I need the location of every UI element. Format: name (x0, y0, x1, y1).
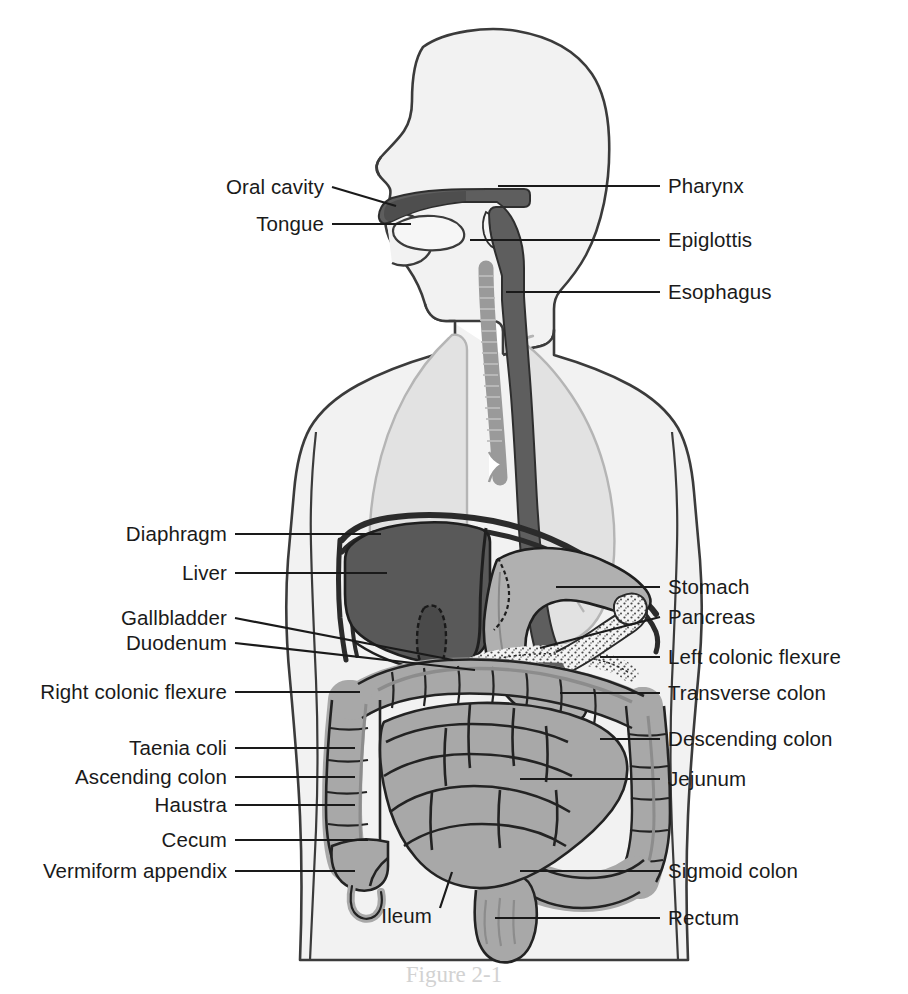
label-stomach: Stomach (668, 577, 750, 598)
label-vermiform-appendix: Vermiform appendix (0, 861, 227, 882)
label-ascending-colon: Ascending colon (0, 767, 227, 788)
label-left-colonic-flexure: Left colonic flexure (668, 647, 841, 668)
pancreas-head (614, 594, 647, 625)
label-duodenum: Duodenum (0, 633, 227, 654)
label-tongue: Tongue (0, 214, 324, 235)
label-transverse-colon: Transverse colon (668, 683, 826, 704)
label-jejunum: Jejunum (668, 769, 746, 790)
label-pharynx: Pharynx (668, 176, 744, 197)
label-taenia-coli: Taenia coli (0, 738, 227, 759)
label-diaphragm: Diaphragm (0, 524, 227, 545)
label-esophagus: Esophagus (668, 282, 771, 303)
label-right-colonic-flexure: Right colonic flexure (0, 682, 227, 703)
label-oral-cavity: Oral cavity (0, 177, 324, 198)
label-rectum: Rectum (668, 908, 739, 929)
label-liver: Liver (0, 563, 227, 584)
label-sigmoid-colon: Sigmoid colon (668, 861, 798, 882)
tongue-organ (393, 216, 464, 250)
ascending-colon-organ (342, 700, 348, 862)
label-gallbladder: Gallbladder (0, 608, 227, 629)
label-pancreas: Pancreas (668, 607, 755, 628)
figure-canvas: Oral cavityTongueDiaphragmLiverGallbladd… (0, 0, 908, 994)
figure-caption: Figure 2-1 (0, 962, 908, 994)
label-descending-colon: Descending colon (668, 729, 833, 750)
label-cecum: Cecum (0, 830, 227, 851)
label-ileum: Ileum (0, 906, 432, 927)
label-haustra: Haustra (0, 795, 227, 816)
leader-oral-cavity (332, 187, 396, 206)
label-epiglottis: Epiglottis (668, 230, 752, 251)
